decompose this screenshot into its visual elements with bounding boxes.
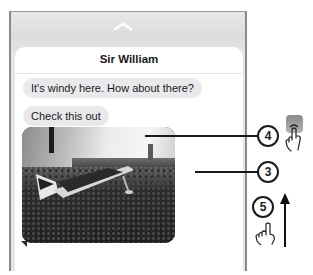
callout-number-5: 5	[252, 196, 274, 218]
message-photo[interactable]	[22, 127, 175, 243]
message-card: Sir William It's windy here. How about t…	[15, 47, 243, 275]
hand-pointer-icon	[254, 221, 276, 245]
message-bubble[interactable]: Check this out	[23, 106, 109, 126]
arrow-up-icon	[279, 193, 291, 247]
photo-tower	[148, 144, 153, 160]
bubble-tail	[21, 241, 27, 247]
message-bubble[interactable]: It's windy here. How about there?	[23, 78, 202, 98]
header-divider	[15, 73, 243, 74]
callout-line-4	[145, 135, 258, 137]
chevron-up-icon[interactable]	[114, 22, 132, 30]
callout-number-4: 4	[257, 125, 279, 147]
callout-line-3	[195, 171, 258, 173]
contact-name: Sir William	[15, 53, 243, 65]
photo-flag	[49, 127, 54, 153]
airplane-shape	[28, 162, 148, 212]
callout-number-3: 3	[257, 161, 279, 183]
hand-pointer-icon	[282, 124, 306, 152]
